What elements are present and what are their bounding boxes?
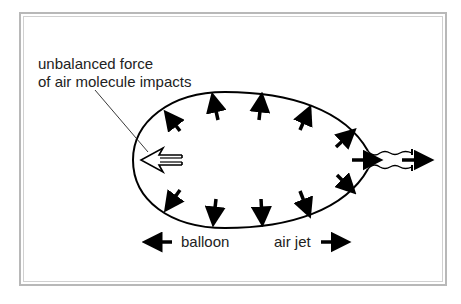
force-label-line1: unbalanced force xyxy=(38,55,191,73)
force-label-line2: of air molecule impacts xyxy=(38,73,191,91)
legend-air-jet: air jet xyxy=(274,233,311,251)
leader-line xyxy=(95,90,148,152)
legend-balloon: balloon xyxy=(181,233,229,251)
balloon-diagram xyxy=(0,0,461,304)
force-label: unbalanced force of air molecule impacts xyxy=(38,55,191,91)
neck xyxy=(368,151,412,155)
